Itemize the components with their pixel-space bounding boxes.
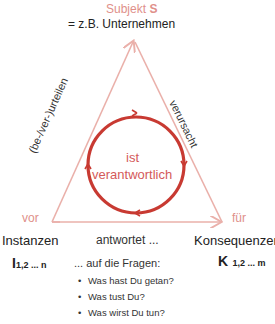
subject-example: = z.B. Unternehmen (68, 17, 175, 31)
left-symbol: I1,2 ... n (12, 254, 46, 272)
edge-right (135, 42, 222, 222)
question-item: Was hast Du getan? (76, 273, 174, 289)
center-line2: verantwortlich (92, 167, 172, 182)
right-label: Konsequenzen (194, 233, 275, 248)
right-preposition: für (232, 211, 246, 225)
subject-label: Subjekt (106, 2, 146, 16)
right-symbol: K 1,2 ... m (218, 252, 266, 270)
subscript-K: 1,2 ... m (233, 258, 266, 268)
questions-list: Was hast Du getan? Was tust Du? Was wirs… (76, 273, 174, 321)
questions-intro: ... auf die Fragen: (74, 257, 160, 269)
edge-bottom-label: antwortet ... (96, 233, 159, 247)
edge-left (52, 42, 133, 222)
subject-symbol: S (149, 2, 157, 16)
responsibility-cycle (88, 117, 184, 213)
left-label: Instanzen (2, 233, 58, 248)
left-preposition: vor (22, 211, 39, 225)
subscript-I: 1,2 ... n (16, 260, 47, 270)
question-item: Was tust Du? (76, 289, 174, 305)
symbol-K: K (218, 253, 228, 269)
center-line1: ist (126, 150, 139, 165)
question-item: Was wirst Du tun? (76, 305, 174, 321)
subject-title: Subjekt S (106, 2, 157, 16)
